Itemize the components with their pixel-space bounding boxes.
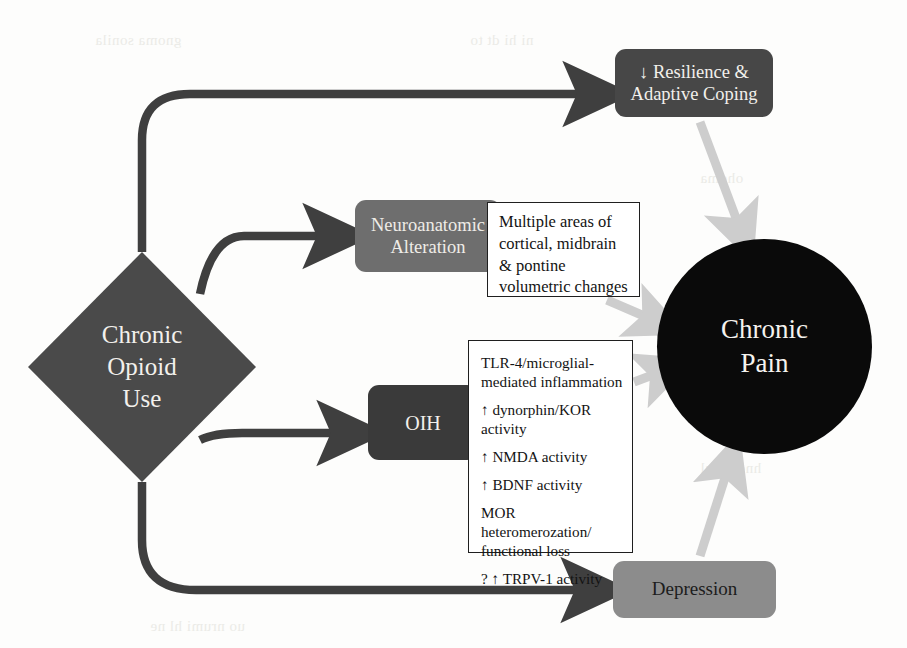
node-depression-label: Depression — [652, 578, 737, 601]
detail-neuroanatomic-text: Multiple areas of cortical, midbrain & p… — [499, 212, 628, 296]
node-resilience-adaptive-coping[interactable]: ↓ Resilience & Adaptive Coping — [615, 49, 773, 117]
list-item: ↑ NMDA activity — [481, 447, 624, 466]
detail-box-oih: TLR-4/microglial- mediated inflammation … — [468, 340, 633, 553]
node-neuroanatomic-label: Neuroanatomic Alteration — [371, 214, 485, 258]
diagram-canvas: gnoma sonila ni hi dt to ohoma hnoltanul… — [0, 0, 907, 648]
list-item: MOR heteromerozation/ functional loss — [481, 503, 624, 560]
detail-box-neuroanatomic: Multiple areas of cortical, midbrain & p… — [487, 202, 640, 297]
node-neuroanatomic-alteration[interactable]: Neuroanatomic Alteration — [355, 200, 501, 272]
edge-neuroanatomic-to-chronic-pain — [607, 300, 658, 322]
node-chronic-opioid-use-label: Chronic Opioid Use — [102, 319, 183, 415]
list-item: ↑ dynorphin/KOR activity — [481, 400, 624, 438]
oih-mechanism-list: TLR-4/microglial- mediated inflammation … — [481, 353, 624, 588]
node-chronic-pain[interactable]: Chronic Pain — [657, 239, 872, 454]
node-depression[interactable]: Depression — [613, 561, 776, 618]
list-item: TLR-4/microglial- mediated inflammation — [481, 353, 624, 391]
list-item: ? ↑ TRPV-1 activity — [481, 569, 624, 588]
edge-resilience-to-chronic-pain — [700, 122, 742, 234]
node-chronic-pain-label: Chronic Pain — [721, 313, 808, 381]
edge-depression-to-chronic-pain — [700, 462, 730, 556]
node-chronic-opioid-use[interactable]: Chronic Opioid Use — [28, 252, 256, 482]
node-resilience-label: ↓ Resilience & Adaptive Coping — [631, 61, 758, 105]
node-oih-label: OIH — [405, 411, 441, 435]
node-oih[interactable]: OIH — [368, 385, 478, 460]
list-item: ↑ BDNF activity — [481, 475, 624, 494]
